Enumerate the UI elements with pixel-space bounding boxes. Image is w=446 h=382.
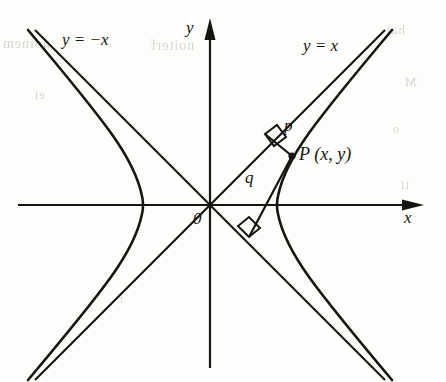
point-p-marker bbox=[288, 152, 295, 159]
asymptote-negative-slope-label: y = −x bbox=[62, 30, 109, 50]
point-p-label: P (x, y) bbox=[299, 144, 351, 165]
distance-segments-group bbox=[249, 134, 292, 237]
y-axis-label: y bbox=[186, 18, 194, 38]
diagram-canvas bbox=[0, 0, 446, 382]
distance-p-label: p bbox=[284, 116, 293, 136]
y-axis-arrowhead bbox=[205, 18, 216, 40]
axes-group bbox=[18, 28, 404, 368]
origin-label: 0 bbox=[193, 209, 202, 229]
right-angle-marker-q bbox=[238, 217, 260, 237]
x-axis-label: x bbox=[404, 208, 412, 228]
asymptote-positive-slope-label: y = x bbox=[303, 36, 338, 56]
distance-q-label: q bbox=[245, 168, 254, 188]
hyperbola-figure: noinem noiterf hai M ei o ti r bbox=[0, 0, 446, 382]
